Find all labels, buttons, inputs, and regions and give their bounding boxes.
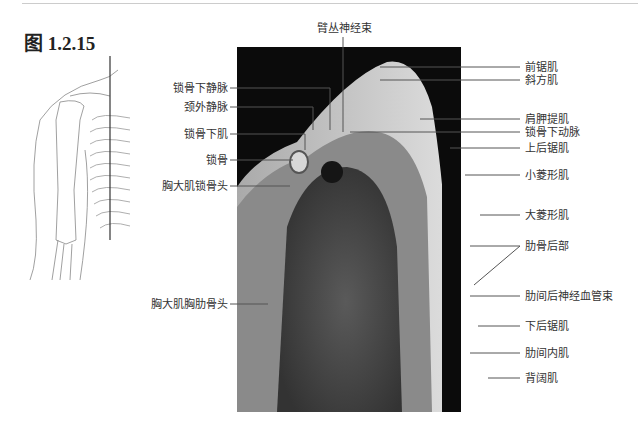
label-brachial-plexus: 臂丛神经束	[317, 22, 372, 35]
label-latissimus-dorsi: 背阔肌	[525, 372, 558, 385]
label-pectoralis-major-sternocostal-head: 胸大肌胸肋骨头	[130, 298, 228, 311]
shoulder-sketch-image	[0, 40, 140, 300]
label-clavicle: 锁骨	[160, 154, 228, 167]
label-posterior-ribs: 肋骨后部	[525, 240, 569, 253]
label-levator-scapulae: 肩胛提肌	[525, 113, 569, 126]
label-pectoralis-major-clavicular-head: 胸大肌锁骨头	[140, 180, 228, 193]
label-subclavian-artery: 锁骨下动脉	[525, 126, 580, 139]
label-posterior-intercostal-neurovascular-bundle: 肋间后神经血管束	[525, 290, 613, 303]
label-serratus-anterior: 前锯肌	[525, 61, 558, 74]
label-subclavius: 锁骨下肌	[160, 128, 228, 141]
label-rhomboid-minor: 小菱形肌	[525, 169, 569, 182]
mri-image	[237, 47, 461, 412]
top-rule	[22, 3, 638, 4]
label-internal-intercostal: 肋间内肌	[525, 347, 569, 360]
label-external-jugular-vein: 颈外静脉	[160, 101, 228, 114]
label-trapezius: 斜方肌	[525, 74, 558, 87]
label-serratus-posterior-inferior: 下后锯肌	[525, 320, 569, 333]
label-rhomboid-major: 大菱形肌	[525, 209, 569, 222]
label-subclavian-vein: 锁骨下静脉	[160, 82, 228, 95]
label-serratus-posterior-superior: 上后锯肌	[525, 142, 569, 155]
